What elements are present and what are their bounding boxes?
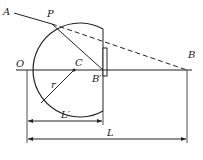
label-C: C [75, 57, 83, 68]
center-point [73, 69, 76, 72]
screen-plate [103, 48, 107, 76]
label-P: P [46, 8, 54, 19]
label-B-prime: B′ [91, 73, 102, 84]
label-A: A [2, 6, 10, 17]
radius-line [41, 70, 74, 103]
label-L: L [106, 127, 114, 138]
label-O: O [16, 58, 24, 69]
label-B: B [187, 49, 195, 60]
dashed-ray-P-B [52, 24, 187, 70]
label-L-prime: L′ [60, 109, 71, 120]
diagram-canvas: A P O C B′ B r L′ L [0, 0, 203, 160]
